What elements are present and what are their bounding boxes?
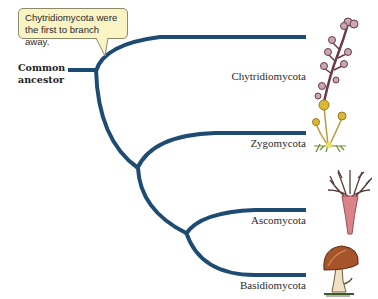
cup-fungus-icon — [326, 168, 372, 236]
callout-box: Chytridiomycota were the first to branch… — [18, 8, 128, 39]
bread-mold-icon — [310, 98, 356, 153]
taxon-label-ascomycota: Ascomycota — [251, 214, 306, 226]
taxon-label-basidiomycota: Basidiomycota — [240, 279, 306, 291]
root-label-line-1: Common — [18, 62, 65, 74]
branch-basidiomycota — [186, 232, 306, 275]
taxon-label-chytridiomycota: Chytridiomycota — [231, 70, 306, 82]
branch-node2-node3 — [138, 168, 186, 233]
branch-chytridiomycota — [96, 37, 306, 71]
chytrid-sporangia-icon — [310, 14, 360, 106]
callout-line-1: Chytridiomycota were — [25, 12, 121, 24]
branch-node1-node2 — [96, 70, 138, 168]
taxon-label-zygomycota: Zygomycota — [250, 137, 306, 149]
mushroom-icon — [320, 242, 364, 298]
root-label-line-2: ancestor — [18, 74, 65, 86]
root-label: Common ancestor — [18, 62, 65, 86]
callout-line-2: the first to branch away. — [25, 24, 121, 48]
